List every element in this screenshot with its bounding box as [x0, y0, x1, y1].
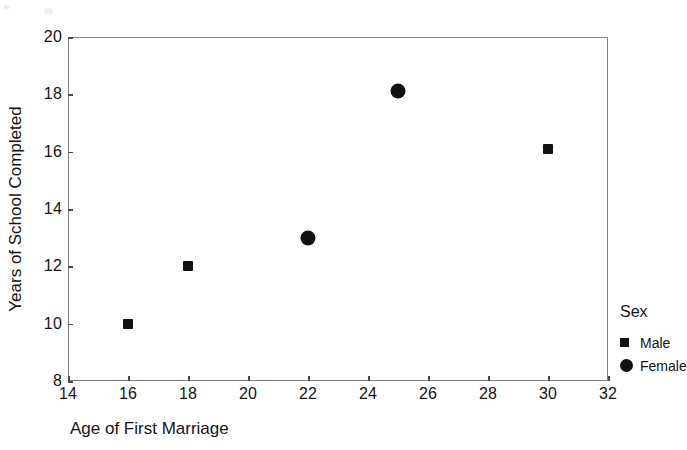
legend-entry-female: Female: [620, 354, 687, 377]
y-axis-tick-label: 10: [44, 315, 62, 333]
x-axis-tick-label: 28: [479, 385, 497, 403]
legend: Sex MaleFemale: [620, 303, 687, 377]
x-axis-tick-label: 18: [179, 385, 197, 403]
x-axis-tick: [548, 376, 550, 381]
x-axis-tick-label: 22: [299, 385, 317, 403]
scan-artifact: [44, 8, 53, 15]
x-axis-tick-label: 20: [239, 385, 257, 403]
legend-entry-group: MaleFemale: [620, 331, 687, 377]
square-marker-icon-glyph: [620, 338, 629, 347]
legend-entry-label: Female: [640, 358, 687, 374]
y-axis-tick: [68, 324, 73, 326]
x-axis-tick-label: 24: [359, 385, 377, 403]
y-axis-title: Years of School Completed: [6, 106, 26, 311]
y-axis-tick-label: 12: [44, 257, 62, 275]
x-axis-tick: [128, 376, 130, 381]
legend-entry-male: Male: [620, 331, 687, 354]
y-axis-tick: [68, 37, 73, 39]
data-point-male: [183, 261, 193, 271]
y-axis-tick-label: 8: [53, 372, 62, 390]
x-axis-tick-label: 16: [119, 385, 137, 403]
y-axis-tick-label: 20: [44, 28, 62, 46]
data-point-female: [301, 230, 316, 245]
y-axis-tick: [68, 209, 73, 211]
x-axis-tick-label: 32: [599, 385, 617, 403]
y-axis-tick-label: 18: [44, 85, 62, 103]
x-axis-tick: [308, 376, 310, 381]
x-axis-tick: [248, 376, 250, 381]
x-axis-tick: [368, 376, 370, 381]
x-axis-tick: [488, 376, 490, 381]
x-axis-tick: [428, 376, 430, 381]
legend-entry-label: Male: [640, 335, 670, 351]
scatter-plot-screenshot: 141618202224262830328101214161820 Age of…: [0, 0, 687, 450]
circle-marker-icon-glyph: [620, 359, 633, 372]
x-axis-tick: [608, 376, 610, 381]
x-axis-tick-label: 30: [539, 385, 557, 403]
square-marker-icon: [620, 338, 636, 347]
data-point-male: [543, 144, 553, 154]
x-axis-title: Age of First Marriage: [70, 419, 229, 439]
y-axis-tick: [68, 381, 73, 383]
circle-marker-icon: [620, 359, 636, 372]
scan-artifact: [4, 5, 9, 10]
y-axis-tick: [68, 152, 73, 154]
y-axis-tick: [68, 94, 73, 96]
legend-title: Sex: [620, 303, 687, 321]
data-point-male: [123, 319, 133, 329]
plot-area: [68, 37, 608, 381]
y-axis-tick-label: 14: [44, 200, 62, 218]
x-axis-tick: [188, 376, 190, 381]
x-axis-tick-label: 26: [419, 385, 437, 403]
y-axis-tick-label: 16: [44, 143, 62, 161]
y-axis-tick: [68, 266, 73, 268]
data-point-female: [391, 84, 406, 99]
